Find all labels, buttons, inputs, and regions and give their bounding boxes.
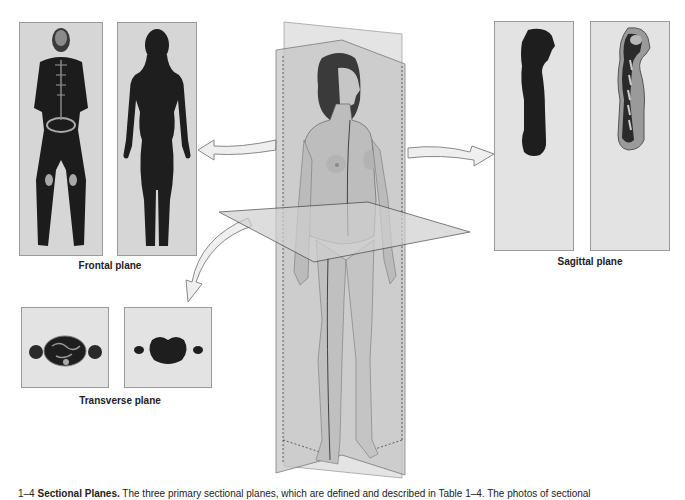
arrow-to-frontal-icon — [198, 140, 276, 160]
transverse-ct-scan-icon — [29, 336, 102, 366]
frontal-mri-scan-icon — [34, 28, 88, 246]
caption-number: 1–4 — [18, 488, 35, 499]
arrow-to-transverse-icon — [186, 218, 252, 302]
sagittal-silhouette-icon — [521, 29, 555, 156]
arrow-to-sagittal-icon — [408, 146, 494, 166]
frontal-silhouette-icon — [124, 29, 191, 246]
sagittal-mri-scan-icon — [618, 28, 650, 150]
figure-caption: 1–4 Sectional Planes. The three primary … — [0, 488, 685, 499]
transverse-silhouette-icon — [134, 337, 203, 364]
caption-title: Sectional Planes. — [37, 488, 119, 499]
transverse-plane-shape — [219, 202, 470, 262]
caption-text: The three primary sectional planes, whic… — [122, 488, 590, 499]
anatomy-illustration — [0, 0, 685, 500]
